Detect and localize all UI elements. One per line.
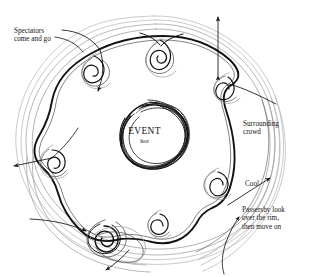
label-spectators: Spectators come and go [14,27,51,44]
label-passersby: Passersby look over the rim, then move o… [242,206,285,231]
spiral-cluster-bottom-left [87,220,145,264]
spiral-cluster-left [40,145,68,179]
arrow-outbound-left [14,128,78,166]
label-surrounding-crowd: Surrounding crowd [243,120,279,137]
label-cool: Cool [245,180,259,188]
arrow-passersby [222,217,239,274]
label-event-subtitle: hot [117,137,172,144]
spiral-cluster-bottom-middle [148,210,171,239]
spiral-cluster-top-left [82,53,110,89]
label-event-title: EVENT [117,126,172,136]
diagram-canvas: .dk{fill:none;stroke:#121212;stroke-line… [0,0,309,277]
spiral-cluster-top [140,33,183,77]
